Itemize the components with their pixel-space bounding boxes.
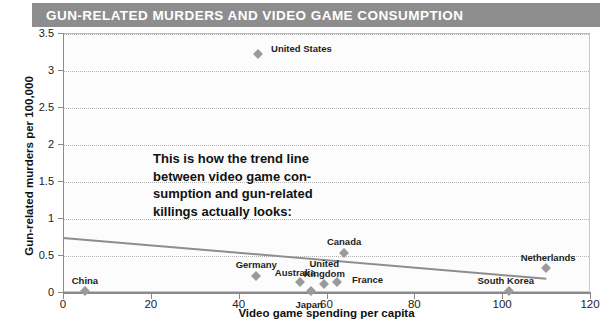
data-point-label-line: South Korea (478, 276, 534, 287)
trend-annotation: This is how the trend linebetween video … (153, 150, 313, 220)
y-axis-title: Gun-related murders per 100,000 (23, 41, 35, 291)
plot-area (63, 33, 590, 292)
annotation-line: between video game con- (153, 168, 313, 186)
data-point-label-line: United (304, 259, 345, 270)
x-tick-mark (590, 294, 591, 299)
data-point-label-line: Canada (327, 237, 361, 248)
data-point-label-line: Germany (236, 260, 277, 271)
x-axis-title: Video game spending per capita (63, 307, 590, 319)
data-point-label: Germany (236, 260, 277, 271)
y-tick-mark (58, 181, 63, 182)
data-point-label: Japan (295, 300, 322, 311)
annotation-line: killings actually looks: (153, 203, 313, 221)
data-point-label: United States (271, 44, 332, 55)
grid-line (64, 145, 589, 146)
data-point-label-line: Japan (295, 300, 322, 311)
annotation-line: sumption and gun-related (153, 185, 313, 203)
data-point-label: Netherlands (521, 253, 576, 264)
y-tick-label: 3 (48, 64, 54, 76)
chart-container: GUN-RELATED MURDERS AND VIDEO GAME CONSU… (0, 0, 600, 320)
y-tick-mark (58, 144, 63, 145)
data-point-label: France (352, 275, 383, 286)
grid-line (64, 256, 589, 257)
x-tick-mark (502, 294, 503, 299)
grid-line (64, 219, 589, 220)
y-tick-mark (58, 292, 63, 293)
x-tick-mark (151, 294, 152, 299)
y-tick-label: 0 (48, 286, 54, 298)
data-point-label-line: China (72, 276, 98, 287)
data-point-label-line: France (352, 275, 383, 286)
y-axis-line (63, 33, 64, 293)
annotation-line: This is how the trend line (153, 150, 313, 168)
y-tick-mark (58, 218, 63, 219)
data-point-label: China (72, 276, 98, 287)
x-tick-mark (414, 294, 415, 299)
data-point-label-line: Netherlands (521, 253, 576, 264)
x-tick-mark (327, 294, 328, 299)
x-tick-mark (63, 294, 64, 299)
y-tick-mark (58, 107, 63, 108)
y-tick-mark (58, 255, 63, 256)
y-tick-mark (58, 70, 63, 71)
chart-title: GUN-RELATED MURDERS AND VIDEO GAME CONSU… (32, 8, 463, 23)
y-tick-mark (58, 33, 63, 34)
y-tick-label: 2 (48, 138, 54, 150)
grid-line (64, 34, 589, 35)
data-point-label: Canada (327, 237, 361, 248)
grid-line (64, 182, 589, 183)
y-tick-label: 3.5 (39, 27, 54, 39)
y-tick-label: 1.5 (39, 175, 54, 187)
data-point-label: South Korea (478, 276, 534, 287)
data-point-label-line: United States (271, 44, 332, 55)
x-tick-mark (239, 294, 240, 299)
grid-line (64, 71, 589, 72)
data-point-label: UnitedKingdom (304, 259, 345, 280)
y-tick-label: 2.5 (39, 101, 54, 113)
y-tick-label: 0.5 (39, 249, 54, 261)
y-tick-label: 1 (48, 212, 54, 224)
chart-title-bar: GUN-RELATED MURDERS AND VIDEO GAME CONSU… (32, 3, 600, 27)
grid-line (64, 108, 589, 109)
